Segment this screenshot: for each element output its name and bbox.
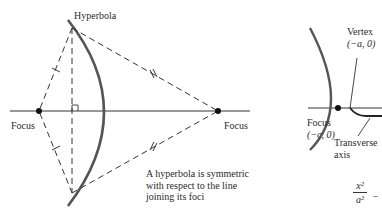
caption-line-1: A hyperbola is symmetric (146, 168, 249, 180)
right-focus-dot (215, 108, 221, 114)
fraction-bar (353, 192, 367, 193)
equation-minus: − (372, 191, 379, 202)
equation-numerator: x² (356, 180, 363, 191)
vertex-label: Vertex (347, 26, 373, 37)
right-focus-dot-2 (335, 105, 341, 111)
caption-line-3: joining its foci (146, 191, 249, 203)
hyperbola-title: Hyperbola (74, 10, 116, 21)
focus-coords: (−c, 0) (307, 129, 335, 140)
focus-label: Focus (307, 117, 331, 128)
right-focus-label: Focus (224, 120, 248, 131)
vertex-coords: (−a, 0) (347, 38, 375, 49)
axis-pointer (358, 118, 370, 136)
vertex-pointer (350, 58, 357, 108)
right-angle-marker (72, 105, 78, 111)
left-focus-label: Focus (11, 120, 35, 131)
equation-fraction: x² a² (353, 180, 367, 205)
transverse-axis-bracket (350, 108, 382, 116)
axis-label: axis (334, 149, 350, 160)
left-focus-dot (36, 108, 42, 114)
symmetry-caption: A hyperbola is symmetric with respect to… (146, 168, 249, 203)
caption-line-2: with respect to the line (146, 180, 249, 192)
equation-denominator: a² (356, 194, 364, 205)
transverse-label: Transverse (334, 137, 378, 148)
